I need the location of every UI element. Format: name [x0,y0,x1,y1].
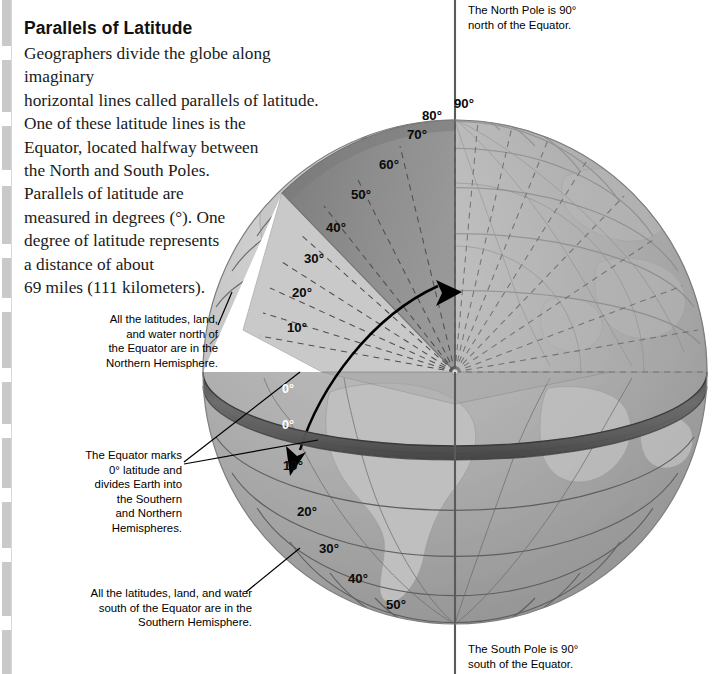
annotation-northern-hemisphere: All the latitudes, land, and water north… [38,312,218,370]
degree-label-s10: 10° [283,458,303,473]
degree-label-n80: 80° [422,108,442,123]
degree-label-s50: 50° [386,597,406,612]
annotation-equator: The Equator marks 0° latitude and divide… [22,448,182,536]
diagram-page: Parallels of Latitude Geographers divide… [0,0,716,674]
cut-face-right [455,120,707,372]
degree-label-equator-upper: 0° [282,382,294,396]
degree-label-n50: 50° [351,187,371,202]
page-title: Parallels of Latitude [24,18,344,39]
degree-label-n90: 90° [454,96,474,111]
degree-label-n70: 70° [407,127,427,142]
degree-label-s30: 30° [319,541,339,556]
degree-label-equator-lower: 0° [282,418,294,432]
text-block: Parallels of Latitude Geographers divide… [24,18,344,299]
body-paragraph: Geographers divide the globe along imagi… [24,42,344,299]
degree-label-s20: 20° [297,504,317,519]
annotation-southern-hemisphere: All the latitudes, land, and water south… [22,586,252,630]
annotation-north-pole: The North Pole is 90° north of the Equat… [468,3,668,32]
degree-label-n30: 30° [304,251,324,266]
degree-label-n10: 10° [287,320,307,335]
degree-label-s40: 40° [348,571,368,586]
degree-label-n60: 60° [379,157,399,172]
degree-label-n20: 20° [292,285,312,300]
leader-southern-hemisphere [246,548,300,592]
annotation-south-pole: The South Pole is 90° south of the Equat… [468,642,678,671]
degree-label-n40: 40° [326,220,346,235]
